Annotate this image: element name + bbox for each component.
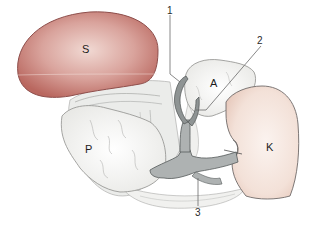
callout-2: 2: [257, 36, 263, 46]
callout-3: 3: [195, 208, 201, 218]
organ-k: [224, 86, 299, 199]
callout-1: 1: [167, 6, 173, 16]
diagram-canvas: [0, 0, 315, 235]
anatomical-diagram: S A P K 1 2 3: [0, 0, 315, 235]
leader-line-1: [170, 15, 180, 82]
label-organ-p: P: [85, 144, 92, 155]
label-organ-s: S: [82, 44, 89, 55]
label-organ-a: A: [210, 78, 217, 89]
label-organ-k: K: [266, 142, 273, 153]
